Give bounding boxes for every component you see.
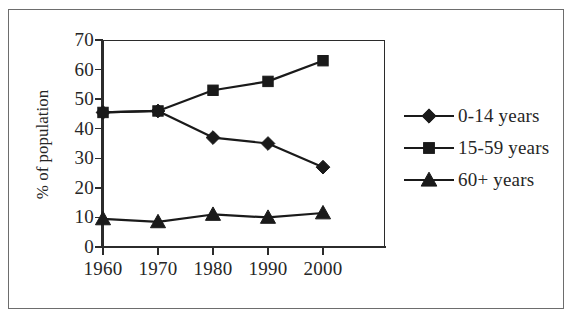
data-point-marker	[205, 207, 220, 220]
square-marker-icon	[419, 138, 439, 158]
legend-sample	[404, 103, 454, 129]
series-triangle	[95, 205, 330, 227]
legend-item: 60+ years	[404, 164, 564, 196]
data-point-marker	[316, 160, 330, 174]
data-point-marker	[263, 76, 273, 86]
legend-item: 0-14 years	[404, 100, 564, 132]
data-point-marker	[318, 56, 328, 66]
data-point-marker	[261, 137, 275, 151]
data-point-marker	[206, 131, 220, 145]
triangle-marker-icon	[419, 170, 439, 190]
legend-label: 60+ years	[454, 170, 534, 190]
series-diamond	[96, 104, 330, 174]
data-point-marker	[98, 107, 108, 117]
legend-label: 15-59 years	[454, 138, 549, 158]
legend-sample	[404, 167, 454, 193]
diamond-marker-icon	[419, 106, 439, 126]
data-point-marker	[208, 85, 218, 95]
data-point-marker	[95, 211, 110, 224]
series-square	[98, 56, 328, 118]
data-point-marker	[153, 106, 163, 116]
legend-label: 0-14 years	[454, 106, 540, 126]
chart-legend: 0-14 years15-59 years60+ years	[404, 100, 564, 196]
data-point-marker	[315, 205, 330, 218]
legend-sample	[404, 135, 454, 161]
legend-item: 15-59 years	[404, 132, 564, 164]
